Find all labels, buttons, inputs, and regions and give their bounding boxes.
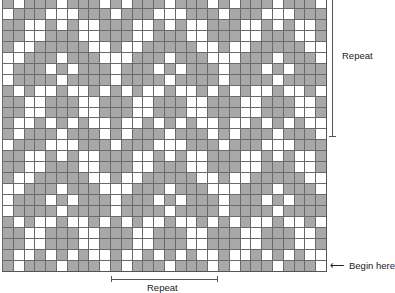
chart-cell — [315, 96, 326, 107]
chart-cell — [304, 260, 315, 271]
chart-cell — [294, 74, 305, 85]
chart-cell — [207, 85, 218, 96]
chart-cell — [45, 19, 56, 30]
chart-cell — [218, 0, 229, 8]
chart-cell — [283, 172, 294, 183]
chart-cell — [304, 194, 315, 205]
chart-cell — [153, 205, 164, 216]
chart-cell — [78, 63, 89, 74]
chart-cell — [110, 128, 121, 139]
chart-cell — [283, 107, 294, 118]
chart-cell — [13, 227, 24, 238]
chart-cell — [153, 30, 164, 41]
chart-cell — [315, 227, 326, 238]
chart-cell — [67, 107, 78, 118]
chart-cell — [78, 216, 89, 227]
chart-cell — [110, 107, 121, 118]
chart-cell — [67, 216, 78, 227]
chart-cell — [99, 74, 110, 85]
chart-cell — [304, 96, 315, 107]
chart-cell — [153, 96, 164, 107]
horizontal-repeat-bracket-right-end — [217, 276, 218, 282]
chart-cell — [34, 30, 45, 41]
chart-cell — [315, 74, 326, 85]
chart-cell — [99, 63, 110, 74]
chart-cell — [196, 238, 207, 249]
chart-cell — [229, 172, 240, 183]
chart-cell — [110, 161, 121, 172]
chart-cell — [34, 107, 45, 118]
chart-cell — [218, 96, 229, 107]
chart-cell — [304, 52, 315, 63]
chart-cell — [13, 128, 24, 139]
chart-cell — [99, 0, 110, 8]
chart-cell — [261, 74, 272, 85]
chart-cell — [272, 85, 283, 96]
chart-cell — [272, 194, 283, 205]
chart-cell — [175, 0, 186, 8]
chart-cell — [186, 41, 197, 52]
chart-cell — [121, 63, 132, 74]
chart-cell — [261, 63, 272, 74]
chart-cell — [175, 74, 186, 85]
chart-cell — [88, 0, 99, 8]
chart-cell — [34, 74, 45, 85]
chart-cell — [218, 107, 229, 118]
chart-cell — [88, 74, 99, 85]
chart-cell — [196, 85, 207, 96]
chart-cell — [88, 63, 99, 74]
chart-cell — [13, 117, 24, 128]
chart-cell — [207, 249, 218, 260]
chart-cell — [99, 172, 110, 183]
chart-cell — [132, 74, 143, 85]
chart-cell — [304, 227, 315, 238]
chart-cell — [24, 205, 35, 216]
chart-cell — [56, 63, 67, 74]
chart-cell — [229, 41, 240, 52]
chart-cell — [2, 74, 13, 85]
chart-cell — [2, 150, 13, 161]
chart-cell — [142, 107, 153, 118]
chart-cell — [272, 227, 283, 238]
chart-cell — [121, 74, 132, 85]
chart-cell — [218, 52, 229, 63]
chart-cell — [121, 161, 132, 172]
chart-cell — [229, 216, 240, 227]
chart-cell — [24, 128, 35, 139]
chart-cell — [315, 194, 326, 205]
chart-cell — [24, 150, 35, 161]
chart-cell — [272, 19, 283, 30]
chart-cell — [132, 227, 143, 238]
chart-cell — [45, 249, 56, 260]
chart-cell — [56, 117, 67, 128]
chart-cell — [196, 96, 207, 107]
chart-cell — [2, 172, 13, 183]
chart-cell — [250, 205, 261, 216]
arrow-left-icon: ⟵ — [330, 260, 344, 271]
chart-cell — [132, 249, 143, 260]
chart-cell — [229, 96, 240, 107]
chart-cell — [175, 183, 186, 194]
chart-cell — [45, 52, 56, 63]
chart-cell — [261, 52, 272, 63]
chart-cell — [110, 260, 121, 271]
chart-cell — [315, 19, 326, 30]
chart-cell — [304, 161, 315, 172]
chart-cell — [78, 249, 89, 260]
chart-cell — [2, 85, 13, 96]
chart-cell — [272, 117, 283, 128]
chart-cell — [142, 63, 153, 74]
chart-cell — [272, 128, 283, 139]
chart-cell — [45, 227, 56, 238]
chart-cell — [67, 139, 78, 150]
chart-cell — [164, 8, 175, 19]
chart-cell — [283, 227, 294, 238]
chart-cell — [121, 260, 132, 271]
chart-cell — [240, 172, 251, 183]
chart-cell — [207, 150, 218, 161]
chart-cell — [218, 8, 229, 19]
chart-cell — [272, 161, 283, 172]
chart-cell — [229, 260, 240, 271]
chart-cell — [250, 183, 261, 194]
chart-cell — [99, 249, 110, 260]
